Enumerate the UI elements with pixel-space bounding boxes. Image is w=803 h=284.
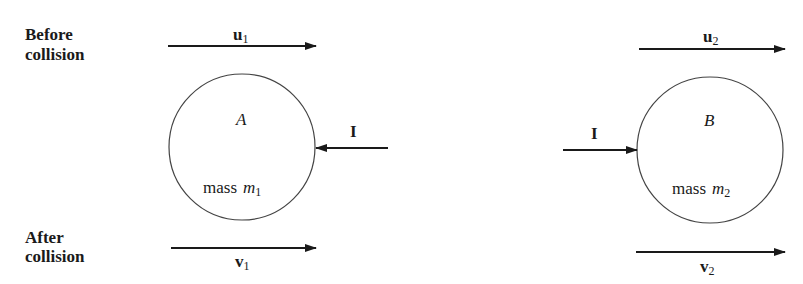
before-label-line1: Before	[25, 25, 73, 44]
impulse-a-label: I	[350, 122, 357, 141]
body-b-mass: massm2	[672, 179, 730, 200]
after-collision-label: After collision	[25, 228, 85, 266]
body-a-group: u1 A massm1 I v1	[168, 25, 388, 273]
body-a-name: A	[235, 110, 247, 129]
body-b-group: u2 B massm2 I v2	[563, 27, 785, 278]
impulse-b-label: I	[591, 124, 598, 143]
body-b-circle	[637, 77, 783, 223]
collision-diagram: Before collision After collision u1 A ma…	[0, 0, 803, 284]
after-label-line2: collision	[25, 247, 85, 266]
velocity-v2-label: v2	[700, 257, 715, 278]
after-label-line1: After	[25, 228, 64, 247]
velocity-u2-label: u2	[703, 27, 718, 48]
velocity-v1-label: v1	[235, 252, 250, 273]
body-a-circle	[169, 74, 315, 220]
body-b-name: B	[704, 111, 715, 130]
before-collision-label: Before collision	[25, 25, 85, 64]
velocity-u1-label: u1	[233, 25, 248, 46]
body-a-mass: massm1	[203, 178, 261, 199]
before-label-line2: collision	[25, 45, 85, 64]
